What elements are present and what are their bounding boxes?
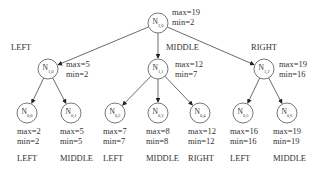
leaf-label-3: MIDDLE (146, 153, 179, 163)
node-0-2-min: min=7 (103, 137, 125, 147)
node-0-0-min: min=2 (17, 137, 39, 147)
node-0-2-label: N0,2 (105, 107, 125, 118)
node-0-5-min: min=16 (230, 137, 257, 147)
node-0-1-min: min=5 (60, 137, 82, 147)
node-root-min: min=2 (172, 18, 194, 28)
node-0-0-label: N0,0 (17, 107, 37, 118)
node-1-1-min: min=7 (175, 70, 197, 80)
node-root-label: N2,0 (148, 17, 168, 28)
node-1-0-min: min=2 (66, 70, 88, 80)
tree-edge (165, 76, 193, 105)
node-0-5-label: N0,5 (233, 107, 253, 118)
node-0-4-label: N0,4 (190, 107, 210, 118)
tree-edge (269, 78, 282, 103)
node-1-2-min: min=16 (279, 70, 306, 80)
edge-label-left: LEFT (11, 42, 31, 52)
node-1-1-label: N1,1 (148, 63, 168, 74)
tree-edge (123, 76, 151, 105)
node-1-2-label: N1,2 (254, 63, 274, 74)
tree-edge (32, 78, 44, 103)
leaf-label-2: LEFT (103, 153, 123, 163)
leaf-label-6: MIDDLE (273, 153, 306, 163)
leaf-label-0: LEFT (17, 153, 37, 163)
tree-edge (53, 78, 66, 103)
node-0-4-min: min=12 (188, 137, 215, 147)
leaf-label-4: RIGHT (188, 153, 214, 163)
edge-label-right: RIGHT (251, 42, 277, 52)
node-0-6-min: min=19 (273, 137, 300, 147)
leaf-label-1: MIDDLE (60, 153, 93, 163)
tree-diagram: N2,0 max=19 min=2 LEFT N1,0 max=5 min=2 … (0, 0, 323, 171)
node-0-3-min: min=8 (146, 137, 168, 147)
node-1-0-label: N1,0 (38, 63, 58, 74)
leaf-label-5: LEFT (230, 153, 250, 163)
node-0-1-label: N0,1 (61, 107, 81, 118)
edge-label-middle: MIDDLE (166, 42, 199, 52)
node-0-3-label: N0,3 (148, 107, 168, 118)
node-0-6-label: N0,6 (277, 107, 297, 118)
tree-edge (248, 78, 260, 103)
